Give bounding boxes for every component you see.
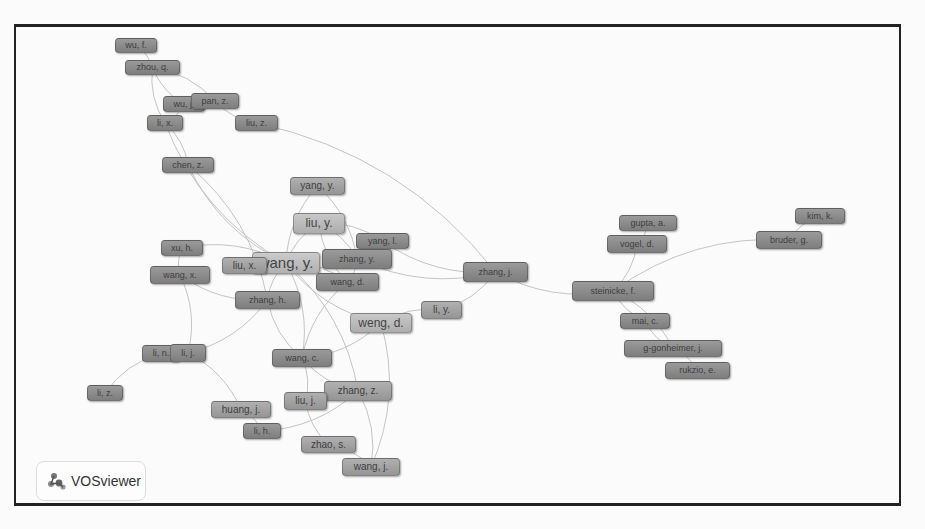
author-node-pan-z[interactable]: pan, z. <box>191 93 239 109</box>
author-node-huang-j[interactable]: huang, j. <box>211 401 271 418</box>
author-node-bruder-g[interactable]: bruder, g. <box>756 231 822 249</box>
author-node-li-x[interactable]: li, x. <box>147 115 183 131</box>
author-node-rukzio-e[interactable]: rukzio, e. <box>665 362 730 379</box>
author-node-li-y[interactable]: li, y. <box>421 301 462 319</box>
vosviewer-logo: VOSviewer <box>36 461 146 501</box>
author-node-yang-y[interactable]: yang, y. <box>290 177 345 195</box>
author-node-chen-z[interactable]: chen, z. <box>162 157 214 173</box>
author-node-vogel-d[interactable]: vogel, d. <box>607 235 667 253</box>
author-node-yang-l[interactable]: yang, l. <box>356 233 409 249</box>
vosviewer-logo-icon <box>47 472 67 490</box>
author-node-li-h[interactable]: li, h. <box>243 423 281 439</box>
edge-layer <box>16 27 901 506</box>
author-node-zhou-q[interactable]: zhou, q. <box>125 60 180 75</box>
author-node-liu-j[interactable]: liu, j. <box>284 392 327 410</box>
author-node-wu-f[interactable]: wu, f. <box>115 38 157 53</box>
author-node-wang-d[interactable]: wang, d. <box>316 273 379 291</box>
author-node-weng-d[interactable]: weng, d. <box>350 313 412 333</box>
author-node-zhang-j[interactable]: zhang, j. <box>463 262 528 282</box>
author-node-zhang-h[interactable]: zhang, h. <box>235 291 300 309</box>
author-node-wang-j[interactable]: wang, j. <box>342 458 400 476</box>
author-node-mai-c[interactable]: mai, c. <box>620 313 670 329</box>
author-node-li-j[interactable]: li, j. <box>170 344 206 362</box>
author-node-wang-x[interactable]: wang, x. <box>150 266 210 284</box>
network-visualization-frame: wu, f.zhou, q.wu, j.pan, z.li, x.liu, z.… <box>14 24 901 506</box>
vosviewer-logo-text: VOSviewer <box>71 473 141 489</box>
author-node-liu-x[interactable]: liu, x. <box>222 257 267 274</box>
edge-wang_x-li_j <box>180 275 192 353</box>
author-node-kim-k[interactable]: kim, k. <box>795 208 845 224</box>
edge-zhang_z-wang_j <box>358 391 373 467</box>
author-node-wang-c[interactable]: wang, c. <box>272 349 332 367</box>
author-node-li-z[interactable]: li, z. <box>87 385 123 401</box>
author-node-liu-y[interactable]: liu, y. <box>293 213 345 234</box>
author-node-steinicke-f[interactable]: steinicke, f. <box>572 281 654 301</box>
author-node-zhang-y[interactable]: zhang, y. <box>322 249 392 269</box>
author-node-xu-h[interactable]: xu, h. <box>161 240 203 256</box>
author-node-liu-z[interactable]: liu, z. <box>235 115 278 131</box>
author-node-zhao-s[interactable]: zhao, s. <box>301 436 356 453</box>
author-node-g-gonheimer-j[interactable]: g-gonheimer, j. <box>624 340 722 357</box>
author-node-zhang-z[interactable]: zhang, z. <box>324 381 392 401</box>
edge-wang_d-wang_c <box>302 282 348 358</box>
author-node-gupta-a[interactable]: gupta, a. <box>619 215 677 231</box>
